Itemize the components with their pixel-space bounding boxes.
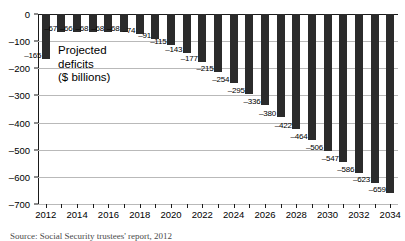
x-axis-tick-mark xyxy=(218,204,219,208)
bar-value-label: –68 xyxy=(76,25,89,33)
gridline xyxy=(38,177,398,178)
bar xyxy=(308,14,316,140)
x-axis-tick-mark xyxy=(359,204,360,208)
x-axis-tick-mark xyxy=(108,204,109,208)
bar-value-label: –659 xyxy=(369,186,386,194)
bar xyxy=(324,14,332,151)
bar-value-label: –506 xyxy=(306,144,323,152)
x-axis-tick-label: 2032 xyxy=(348,209,369,220)
bar xyxy=(371,14,379,183)
bar xyxy=(198,14,206,62)
bar-value-label: –380 xyxy=(259,110,276,118)
x-axis-tick-label: 2020 xyxy=(160,209,181,220)
bar-value-label: –547 xyxy=(322,155,339,163)
x-axis-tick-mark xyxy=(61,204,62,208)
x-axis-tick-label: 2014 xyxy=(67,209,88,220)
y-axis-tick-label: 0 xyxy=(25,9,30,20)
deficit-bar-chart: 0–100–200–300–400–500–600–700 –165–67–66… xyxy=(0,0,405,241)
x-axis-tick-mark xyxy=(249,204,250,208)
bar-value-label: –215 xyxy=(197,65,214,73)
bar xyxy=(167,14,175,45)
bar-value-label: –165 xyxy=(24,52,41,60)
bar-value-label: –68 xyxy=(107,25,120,33)
bar xyxy=(277,14,285,117)
bar xyxy=(151,14,159,39)
bar-value-label: –177 xyxy=(181,55,198,63)
projected-deficits-annotation: Projecteddeficits($ billions) xyxy=(58,44,110,85)
x-axis-tick-mark xyxy=(281,204,282,208)
bar-value-label: –66 xyxy=(60,25,73,33)
x-axis-tick-label: 2024 xyxy=(223,209,244,220)
y-axis-tick-label: –400 xyxy=(9,117,30,128)
y-axis-tick-label: –100 xyxy=(9,36,30,47)
bar-value-label: –91 xyxy=(138,32,151,40)
bar-value-label: –68 xyxy=(91,25,104,33)
bar-value-label: –464 xyxy=(290,133,307,141)
annotation-line: deficits xyxy=(58,58,110,72)
x-axis-tick-mark xyxy=(77,204,78,208)
y-axis-tick-label: –300 xyxy=(9,90,30,101)
bar xyxy=(386,14,394,193)
x-axis-labels: 2012201420162018202020222024202620282030… xyxy=(38,209,398,223)
bar xyxy=(292,14,300,129)
bar-value-label: –336 xyxy=(243,98,260,106)
bar xyxy=(230,14,238,83)
x-axis-tick-mark xyxy=(328,204,329,208)
bar xyxy=(245,14,253,94)
x-axis-tick-mark xyxy=(124,204,125,208)
x-axis-tick-mark xyxy=(46,204,47,208)
x-axis-tick-mark xyxy=(375,204,376,208)
x-axis-tick-mark xyxy=(343,204,344,208)
annotation-line: ($ billions) xyxy=(58,71,110,85)
x-axis-tick-mark xyxy=(234,204,235,208)
bar-value-label: –254 xyxy=(212,76,229,84)
y-axis-tick-label: –700 xyxy=(9,199,30,210)
bar xyxy=(261,14,269,105)
x-axis-tick-label: 2022 xyxy=(192,209,213,220)
x-axis-tick-mark xyxy=(296,204,297,208)
bar xyxy=(183,14,191,53)
y-axis-tick-label: –200 xyxy=(9,63,30,74)
y-axis-tick-label: –600 xyxy=(9,171,30,182)
bar xyxy=(214,14,222,72)
x-axis-tick-mark xyxy=(155,204,156,208)
y-axis-labels: 0–100–200–300–400–500–600–700 xyxy=(0,14,34,204)
bar-value-label: –295 xyxy=(228,87,245,95)
x-axis-tick-mark xyxy=(202,204,203,208)
bar xyxy=(339,14,347,162)
x-axis-tick-mark xyxy=(93,204,94,208)
x-axis-tick-mark xyxy=(187,204,188,208)
bar-value-label: –67 xyxy=(44,25,57,33)
x-axis-tick-label: 2028 xyxy=(286,209,307,220)
bar-value-label: –586 xyxy=(337,166,354,174)
x-axis-tick-label: 2018 xyxy=(129,209,150,220)
bar-value-label: –623 xyxy=(353,176,370,184)
x-axis-tick-label: 2030 xyxy=(317,209,338,220)
x-axis-tick-label: 2034 xyxy=(380,209,401,220)
bar-value-label: –115 xyxy=(150,38,166,46)
bar-value-label: –422 xyxy=(275,122,292,130)
y-axis-tick-label: –500 xyxy=(9,144,30,155)
bar-value-label: –74 xyxy=(122,27,135,35)
x-axis-tick-mark xyxy=(140,204,141,208)
x-axis-tick-mark xyxy=(171,204,172,208)
bar xyxy=(42,14,50,59)
x-axis-tick-label: 2026 xyxy=(254,209,275,220)
x-axis-tick-label: 2016 xyxy=(98,209,119,220)
bar xyxy=(355,14,363,173)
x-axis-tick-mark xyxy=(390,204,391,208)
x-axis-tick-label: 2012 xyxy=(35,209,56,220)
x-axis-tick-mark xyxy=(265,204,266,208)
annotation-line: Projected xyxy=(58,44,110,58)
bar-value-label: –143 xyxy=(165,46,182,54)
plot-area: –165–67–66–68–68–68–74–91–115–143–177–21… xyxy=(38,14,398,204)
source-caption: Source: Social Security trustees' report… xyxy=(10,231,172,241)
x-axis-tick-mark xyxy=(312,204,313,208)
